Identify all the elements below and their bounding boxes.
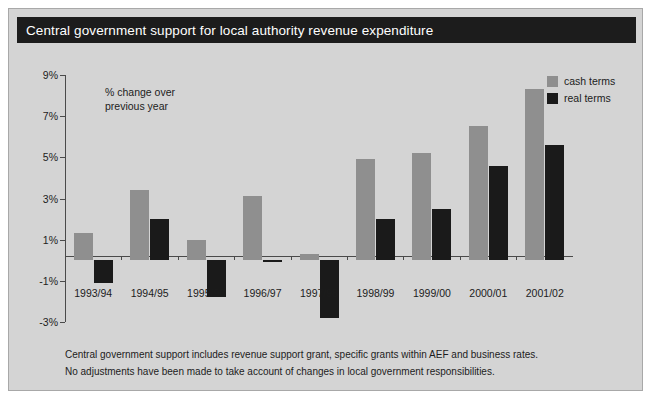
y-axis-tick: [60, 75, 65, 76]
x-axis-label-2000-01: 2000/01: [460, 287, 516, 299]
chart-footnotes: Central government support includes reve…: [65, 347, 538, 380]
x-axis-tick: [403, 256, 404, 260]
annotation-line-2: previous year: [105, 99, 175, 113]
legend-swatch-real-icon: [547, 93, 558, 104]
bar-1998-99-real: [376, 219, 395, 260]
bar-1993-94-cash: [74, 233, 93, 260]
x-axis-tick: [516, 256, 517, 260]
x-axis-tick: [460, 256, 461, 260]
y-axis-tick-label: -1%: [18, 275, 58, 287]
chart-title-bar: Central government support for local aut…: [17, 17, 636, 43]
bar-1995-96-cash: [187, 240, 206, 261]
y-axis-tick-label: -3%: [18, 316, 58, 328]
y-axis-tick-label: 3%: [18, 193, 58, 205]
y-axis-tick: [60, 322, 65, 323]
y-axis-tick: [60, 240, 65, 241]
x-axis-label-1999-00: 1999/00: [404, 287, 460, 299]
page-title: Central government support for local aut…: [17, 23, 433, 38]
x-axis-label-1996-97: 1996/97: [234, 287, 290, 299]
bar-1999-00-cash: [412, 153, 431, 260]
bar-1996-97-real: [263, 260, 282, 262]
y-axis-tick-label: 9%: [18, 69, 58, 81]
y-axis-tick-label: 5%: [18, 151, 58, 163]
y-axis-tick: [60, 281, 65, 282]
chart-figure: Central government support for local aut…: [8, 8, 643, 391]
bar-2000-01-cash: [469, 126, 488, 260]
y-axis-tick-label: 1%: [18, 234, 58, 246]
bar-1996-97-cash: [243, 196, 262, 260]
y-axis-tick: [60, 157, 65, 158]
x-axis-label-2001-02: 2001/02: [517, 287, 573, 299]
bar-1993-94-real: [94, 260, 113, 283]
x-axis-tick: [178, 256, 179, 260]
bar-2000-01-real: [489, 166, 508, 261]
legend-item-real: real terms: [547, 92, 615, 104]
footnote-line-2: No adjustments have been made to take ac…: [65, 364, 538, 381]
footnote-line-1: Central government support includes reve…: [65, 347, 538, 364]
legend-swatch-cash-icon: [547, 76, 558, 87]
x-axis-tick: [121, 256, 122, 260]
bar-1999-00-real: [432, 209, 451, 260]
y-axis-tick: [60, 199, 65, 200]
x-axis-label-1994-95: 1994/95: [121, 287, 177, 299]
chart-legend: cash terms real terms: [547, 75, 615, 109]
x-axis-label-1997-98: 1997/98: [291, 287, 347, 299]
annotation-line-1: % change over: [105, 85, 175, 99]
legend-item-cash: cash terms: [547, 75, 615, 87]
plot-area: 9%7%5%3%1%-1%-3% 1993/941994/951995/9619…: [17, 49, 636, 337]
x-axis-label-1993-94: 1993/94: [65, 287, 121, 299]
x-axis-label-1995-96: 1995/96: [178, 287, 234, 299]
legend-label-real: real terms: [564, 92, 611, 104]
legend-label-cash: cash terms: [564, 75, 615, 87]
bar-2001-02-cash: [525, 89, 544, 260]
x-axis-tick: [347, 256, 348, 260]
x-axis-label-1998-99: 1998/99: [347, 287, 403, 299]
y-axis-tick: [60, 116, 65, 117]
bar-1994-95-cash: [130, 190, 149, 260]
x-axis-tick: [234, 256, 235, 260]
bar-1997-98-cash: [300, 254, 319, 260]
bar-1998-99-cash: [356, 159, 375, 260]
x-axis-tick: [291, 256, 292, 260]
bar-2001-02-real: [545, 145, 564, 260]
y-axis-tick-label: 7%: [18, 110, 58, 122]
y-axis-line: [65, 75, 66, 322]
chart-annotation: % change over previous year: [105, 85, 175, 113]
bar-1994-95-real: [150, 219, 169, 260]
